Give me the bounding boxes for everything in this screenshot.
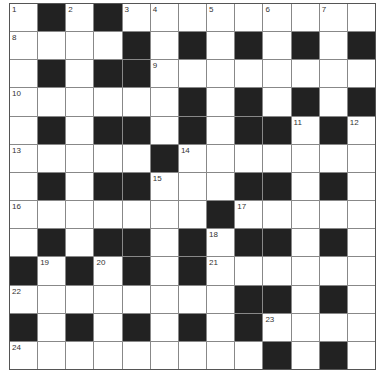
letter-cell[interactable]: [235, 145, 262, 172]
letter-cell[interactable]: [10, 229, 37, 256]
letter-cell[interactable]: [151, 342, 178, 369]
letter-cell[interactable]: [151, 88, 178, 115]
letter-cell[interactable]: [10, 60, 37, 87]
letter-cell[interactable]: [38, 342, 65, 369]
letter-cell[interactable]: [320, 32, 347, 59]
letter-cell[interactable]: [292, 314, 319, 341]
letter-cell[interactable]: [94, 145, 121, 172]
letter-cell[interactable]: [94, 88, 121, 115]
letter-cell[interactable]: [66, 229, 93, 256]
letter-cell[interactable]: [263, 257, 290, 284]
letter-cell[interactable]: [151, 314, 178, 341]
letter-cell[interactable]: 18: [207, 229, 234, 256]
letter-cell[interactable]: [207, 314, 234, 341]
letter-cell[interactable]: [292, 4, 319, 31]
letter-cell[interactable]: [348, 4, 375, 31]
letter-cell[interactable]: [66, 145, 93, 172]
letter-cell[interactable]: [151, 286, 178, 313]
letter-cell[interactable]: [263, 32, 290, 59]
letter-cell[interactable]: [348, 286, 375, 313]
letter-cell[interactable]: [123, 286, 150, 313]
letter-cell[interactable]: 1: [10, 4, 37, 31]
letter-cell[interactable]: [66, 32, 93, 59]
letter-cell[interactable]: [207, 145, 234, 172]
letter-cell[interactable]: [207, 32, 234, 59]
letter-cell[interactable]: [235, 4, 262, 31]
letter-cell[interactable]: [123, 342, 150, 369]
letter-cell[interactable]: [123, 88, 150, 115]
letter-cell[interactable]: [320, 314, 347, 341]
letter-cell[interactable]: [66, 286, 93, 313]
letter-cell[interactable]: [235, 257, 262, 284]
letter-cell[interactable]: [292, 257, 319, 284]
letter-cell[interactable]: [179, 201, 206, 228]
letter-cell[interactable]: 6: [263, 4, 290, 31]
letter-cell[interactable]: [179, 173, 206, 200]
letter-cell[interactable]: [151, 117, 178, 144]
letter-cell[interactable]: [38, 88, 65, 115]
letter-cell[interactable]: 22: [10, 286, 37, 313]
letter-cell[interactable]: [38, 32, 65, 59]
letter-cell[interactable]: 13: [10, 145, 37, 172]
letter-cell[interactable]: [292, 342, 319, 369]
letter-cell[interactable]: 3: [123, 4, 150, 31]
letter-cell[interactable]: [123, 145, 150, 172]
letter-cell[interactable]: [94, 342, 121, 369]
letter-cell[interactable]: 7: [320, 4, 347, 31]
letter-cell[interactable]: [179, 342, 206, 369]
letter-cell[interactable]: [151, 201, 178, 228]
letter-cell[interactable]: [94, 32, 121, 59]
letter-cell[interactable]: 5: [207, 4, 234, 31]
letter-cell[interactable]: [151, 257, 178, 284]
letter-cell[interactable]: [66, 117, 93, 144]
letter-cell[interactable]: [38, 314, 65, 341]
letter-cell[interactable]: [207, 88, 234, 115]
letter-cell[interactable]: [38, 145, 65, 172]
letter-cell[interactable]: [320, 88, 347, 115]
letter-cell[interactable]: [179, 60, 206, 87]
letter-cell[interactable]: [207, 117, 234, 144]
letter-cell[interactable]: [263, 60, 290, 87]
letter-cell[interactable]: [348, 201, 375, 228]
letter-cell[interactable]: 19: [38, 257, 65, 284]
letter-cell[interactable]: 2: [66, 4, 93, 31]
letter-cell[interactable]: 8: [10, 32, 37, 59]
letter-cell[interactable]: [66, 201, 93, 228]
letter-cell[interactable]: 4: [151, 4, 178, 31]
letter-cell[interactable]: [320, 60, 347, 87]
letter-cell[interactable]: [207, 173, 234, 200]
letter-cell[interactable]: [179, 286, 206, 313]
letter-cell[interactable]: [348, 314, 375, 341]
letter-cell[interactable]: 14: [179, 145, 206, 172]
letter-cell[interactable]: [263, 88, 290, 115]
letter-cell[interactable]: [66, 342, 93, 369]
letter-cell[interactable]: [320, 257, 347, 284]
letter-cell[interactable]: [10, 173, 37, 200]
letter-cell[interactable]: [235, 60, 262, 87]
letter-cell[interactable]: 20: [94, 257, 121, 284]
letter-cell[interactable]: [348, 257, 375, 284]
letter-cell[interactable]: 16: [10, 201, 37, 228]
letter-cell[interactable]: [348, 229, 375, 256]
letter-cell[interactable]: [66, 88, 93, 115]
letter-cell[interactable]: [348, 145, 375, 172]
letter-cell[interactable]: [207, 342, 234, 369]
letter-cell[interactable]: [292, 173, 319, 200]
letter-cell[interactable]: [320, 201, 347, 228]
letter-cell[interactable]: [207, 60, 234, 87]
letter-cell[interactable]: [292, 145, 319, 172]
letter-cell[interactable]: [348, 60, 375, 87]
letter-cell[interactable]: 12: [348, 117, 375, 144]
letter-cell[interactable]: 23: [263, 314, 290, 341]
letter-cell[interactable]: [348, 173, 375, 200]
letter-cell[interactable]: 17: [235, 201, 262, 228]
letter-cell[interactable]: 10: [10, 88, 37, 115]
letter-cell[interactable]: [235, 342, 262, 369]
letter-cell[interactable]: [151, 32, 178, 59]
letter-cell[interactable]: [38, 201, 65, 228]
letter-cell[interactable]: [348, 342, 375, 369]
letter-cell[interactable]: [66, 173, 93, 200]
letter-cell[interactable]: [38, 286, 65, 313]
letter-cell[interactable]: [94, 314, 121, 341]
letter-cell[interactable]: [123, 201, 150, 228]
